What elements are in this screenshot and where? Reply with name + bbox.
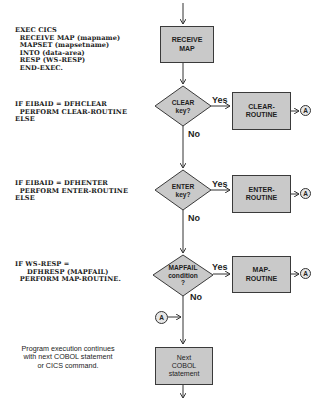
clear-yes-label: Yes (212, 95, 228, 105)
connector-a-enter: A (300, 188, 311, 199)
enter-routine-box: ENTER- ROUTINE (232, 175, 291, 213)
code-if-enter: IF EIBAID = DFHENTER PERFORM ENTER-ROUTI… (15, 180, 128, 203)
code-receive-map: EXEC CICS RECEIVE MAP (mapname) MAPSET (… (15, 27, 120, 73)
connector-a-merge: A (155, 311, 168, 324)
enter-no-label: No (188, 213, 200, 223)
mapfail-no-label: No (190, 292, 202, 302)
code-if-mapfail: IF WS-RESP = DFHRESP (MAPFAIL) PERFORM M… (15, 261, 121, 284)
clear-no-label: No (188, 129, 200, 139)
continuation-note: Program execution continues with next CO… (12, 345, 124, 370)
figure-caption-cutoff (48, 403, 278, 406)
enter-key-label: ENTER key? (158, 183, 208, 198)
receive-map-box: RECEIVE MAP (160, 26, 214, 63)
mapfail-yes-label: Yes (212, 262, 228, 272)
enter-yes-label: Yes (212, 179, 228, 189)
clear-routine-box: CLEAR- ROUTINE (232, 92, 291, 130)
map-routine-box: MAP- ROUTINE (232, 256, 291, 293)
connector-a-mapfail: A (300, 268, 311, 279)
connector-a-clear: A (300, 105, 311, 116)
clear-key-label: CLEAR key? (158, 99, 208, 114)
code-if-clear: IF EIBAID = DFHCLEAR PERFORM CLEAR-ROUTI… (15, 101, 127, 124)
next-cobol-statement-box: Next COBOL statement (155, 347, 213, 385)
mapfail-label: MAPFAIL condition ? (158, 264, 208, 287)
